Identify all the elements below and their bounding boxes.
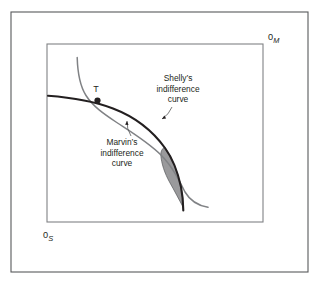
marvin-label-line-1: Marvin’s <box>106 137 137 147</box>
diagram-canvas: T Shelly’sindifferencecurve Marvin’sindi… <box>0 0 319 285</box>
marvin-label-line-2: indifference <box>100 148 143 158</box>
marvin-label-line-3: curve <box>112 158 133 168</box>
shelly-label-line-3: curve <box>168 94 189 104</box>
shelly-label-line-2: indifference <box>156 84 199 94</box>
tangency-point-dot <box>94 97 100 103</box>
origin-shelly-subscript: S <box>48 234 53 243</box>
edgeworth-box-figure: T Shelly’sindifferencecurve Marvin’sindi… <box>0 0 319 285</box>
shelly-label-line-1: Shelly’s <box>164 73 193 83</box>
origin-marvin-subscript: M <box>273 36 280 45</box>
tangency-point-label: T <box>93 84 99 94</box>
